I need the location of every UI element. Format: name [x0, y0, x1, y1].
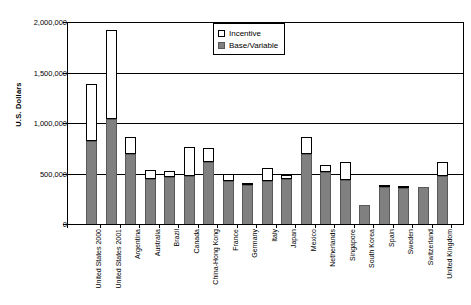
x-axis-category-label: United States 2001: [114, 229, 123, 289]
x-axis-tick-mark: [120, 224, 121, 228]
bar-column: [437, 23, 448, 225]
x-axis-category-label: Switzerland: [426, 229, 435, 265]
bar-segment-incentive: [301, 137, 312, 154]
bar-segment-incentive: [184, 147, 195, 175]
bar-segment-base-variable: [242, 185, 253, 225]
x-axis-tick-mark: [451, 224, 452, 228]
bar-segment-incentive: [320, 165, 331, 173]
x-axis-tick-mark: [217, 224, 218, 228]
bar-segment-incentive: [398, 186, 409, 188]
bar-column: [379, 23, 390, 225]
bar-segment-base-variable: [223, 181, 234, 225]
chart-legend: Incentive Base/Variable: [213, 23, 285, 55]
bar-segment-base-variable: [359, 205, 370, 225]
bar-column: [340, 23, 351, 225]
stacked-bar-chart: U.S. Dollars 0500,0001,000,0001,500,0002…: [0, 0, 471, 305]
bar-segment-base-variable: [437, 176, 448, 225]
bar-column: [320, 23, 331, 225]
x-axis-category-label: China-Hong Kong: [211, 229, 220, 285]
bar-column: [184, 23, 195, 225]
bar-segment-base-variable: [184, 176, 195, 225]
x-axis-labels: United States 2000United States 2001Arge…: [67, 229, 463, 305]
x-axis-tick-mark: [178, 224, 179, 228]
x-axis-tick-mark: [276, 224, 277, 228]
bar-segment-base-variable: [203, 162, 214, 225]
x-axis-tick-mark: [354, 224, 355, 228]
bar-segment-incentive: [106, 30, 117, 119]
y-axis-tick-label: 0: [9, 220, 67, 229]
bar-segment-incentive: [203, 148, 214, 162]
x-axis-tick-mark: [198, 224, 199, 228]
x-axis-category-label: Japan: [289, 229, 298, 248]
x-axis-category-label: Sweden: [406, 229, 415, 254]
filled-square-swatch-icon: [218, 42, 225, 49]
bar-column: [125, 23, 136, 225]
bar-column: [398, 23, 409, 225]
x-axis-category-label: Spain: [387, 229, 396, 247]
bar-segment-base-variable: [398, 188, 409, 225]
bar-column: [418, 23, 429, 225]
bar-segment-incentive: [379, 185, 390, 187]
bar-segment-base-variable: [145, 179, 156, 225]
bar-column: [86, 23, 97, 225]
y-axis-tick-label: 500,000: [9, 169, 67, 178]
x-axis-category-label: Argentina: [133, 229, 142, 259]
bar-segment-incentive: [223, 174, 234, 181]
y-axis-ticks: 0500,0001,000,0001,500,0002,000,000: [0, 0, 67, 305]
x-axis-category-label: Germany: [250, 229, 259, 258]
bar-segment-incentive: [125, 137, 136, 155]
x-axis-tick-mark: [237, 224, 238, 228]
bar-segment-incentive: [145, 170, 156, 179]
bar-segment-incentive: [242, 183, 253, 185]
x-axis-category-label: Brazil: [172, 229, 181, 247]
x-axis-category-label: Italy: [270, 229, 279, 242]
bar-segment-base-variable: [106, 119, 117, 225]
y-axis-tick-label: 1,500,000: [9, 68, 67, 77]
legend-label-base-variable: Base/Variable: [229, 41, 278, 50]
x-axis-category-label: South Korea: [367, 229, 376, 268]
x-axis-tick-mark: [373, 224, 374, 228]
bar-segment-incentive: [281, 175, 292, 180]
bar-column: [164, 23, 175, 225]
x-axis-category-label: Australia: [153, 229, 162, 256]
x-axis-tick-mark: [67, 224, 68, 228]
legend-label-incentive: Incentive: [229, 29, 261, 38]
bar-segment-incentive: [164, 171, 175, 176]
bar-segment-incentive: [86, 84, 97, 142]
x-axis-category-label: Netherlands: [328, 229, 337, 267]
bar-segment-base-variable: [262, 181, 273, 225]
x-axis-tick-mark: [412, 224, 413, 228]
legend-item-incentive: Incentive: [218, 27, 278, 39]
bar-segment-base-variable: [86, 141, 97, 225]
x-axis-tick-mark: [159, 224, 160, 228]
bar-segment-base-variable: [320, 172, 331, 225]
y-axis-tick-label: 1,000,000: [9, 119, 67, 128]
x-axis-tick-mark: [100, 224, 101, 228]
bar-column: [301, 23, 312, 225]
bar-segment-incentive: [437, 162, 448, 176]
x-axis-category-label: Singapore: [348, 229, 357, 261]
x-axis-category-label: United Kingdom: [445, 229, 454, 279]
bar-segment-base-variable: [301, 154, 312, 225]
x-axis-tick-mark: [139, 224, 140, 228]
bar-segment-base-variable: [340, 180, 351, 225]
bar-segment-base-variable: [379, 187, 390, 225]
x-axis-tick-mark: [315, 224, 316, 228]
bar-column: [359, 23, 370, 225]
legend-item-base-variable: Base/Variable: [218, 39, 278, 51]
bar-segment-base-variable: [281, 179, 292, 225]
y-axis-tick-label: 2,000,000: [9, 18, 67, 27]
x-axis-category-label: France: [231, 229, 240, 251]
bar-segment-base-variable: [418, 187, 429, 225]
x-axis-category-label: Mexico: [309, 229, 318, 251]
bar-column: [106, 23, 117, 225]
bar-segment-base-variable: [164, 177, 175, 225]
bar-segment-base-variable: [125, 154, 136, 225]
x-axis-tick-mark: [295, 224, 296, 228]
bar-segment-incentive: [340, 162, 351, 180]
bar-column: [145, 23, 156, 225]
x-axis-category-label: United States 2000: [94, 229, 103, 289]
x-axis-tick-mark: [256, 224, 257, 228]
x-axis-tick-mark: [334, 224, 335, 228]
x-axis-category-label: Canada: [192, 229, 201, 254]
